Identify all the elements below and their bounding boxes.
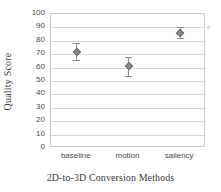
gridline [51,54,204,55]
data-point-marker [176,29,184,37]
error-bar-cap-lower [125,76,132,77]
gridline [51,135,204,136]
quality-score-chart: Quality Score 0102030405060708090100 bas… [0,0,221,192]
gridline [51,41,204,42]
x-axis-tick-labels: baselinemotionsaliency [50,151,205,165]
y-axis-tick-label: 0 [41,143,45,151]
y-axis-tick-label: 80 [36,36,45,44]
gridline [51,108,204,109]
y-axis-tick-label: 90 [36,22,45,30]
y-axis-title-text: Quality Score [3,52,14,110]
plot-area [50,13,205,147]
y-axis-tick-label: 100 [32,9,45,17]
error-bar-cap-upper [73,43,80,44]
x-axis-tick-label: motion [115,151,139,161]
gridline [51,81,204,82]
x-axis-tick-label: baseline [61,151,91,161]
error-bar-cap-upper [125,57,132,58]
gridline [51,94,204,95]
y-axis-tick-label: 70 [36,49,45,57]
y-axis-tick-label: 10 [36,130,45,138]
data-point-marker [124,62,132,70]
y-axis-tick-label: 20 [36,116,45,124]
y-axis-tick-labels: 0102030405060708090100 [16,13,48,147]
y-axis-tick-label: 30 [36,103,45,111]
y-axis-title: Quality Score [0,28,16,134]
gridline [51,121,204,122]
y-axis-tick-label: 40 [36,89,45,97]
error-bar-cap-lower [177,38,184,39]
error-bar-cap-lower [73,60,80,61]
x-axis-title: 2D-to-3D Conversion Methods [0,172,221,183]
scan-artifact [207,26,210,29]
y-axis-tick-label: 60 [36,63,45,71]
y-axis-tick-label: 50 [36,76,45,84]
x-axis-tick-label: saliency [165,151,194,161]
